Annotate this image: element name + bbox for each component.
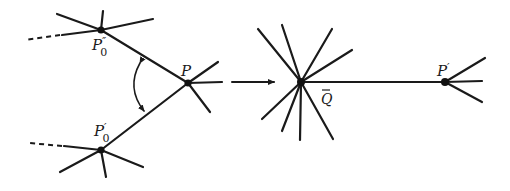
edge-p0p-p bbox=[101, 83, 188, 150]
node-p0-prime-spokes bbox=[29, 143, 143, 177]
node-p0-double-prime-spokes bbox=[25, 11, 153, 40]
label-p0-prime: P′0 bbox=[93, 121, 110, 145]
node-p bbox=[184, 79, 191, 86]
rotation-arc-icon bbox=[134, 63, 144, 111]
label-q-bar: Q bbox=[321, 91, 333, 107]
label-p-prime: P′ bbox=[436, 61, 450, 80]
node-p0-double-prime bbox=[97, 26, 104, 33]
node-p0-prime bbox=[97, 146, 104, 153]
edge-p0pp-p bbox=[101, 30, 188, 83]
graph-contraction-diagram: P″0 P P′0 bbox=[0, 0, 510, 191]
left-panel: P″0 P P′0 bbox=[25, 11, 250, 177]
node-q-bar bbox=[297, 78, 305, 86]
right-panel: Q P′ bbox=[258, 25, 485, 140]
node-p-prime-spokes bbox=[445, 58, 485, 102]
label-p: P bbox=[180, 62, 192, 80]
label-p0-double-prime: P″0 bbox=[91, 35, 107, 59]
node-p-spokes bbox=[188, 62, 250, 112]
